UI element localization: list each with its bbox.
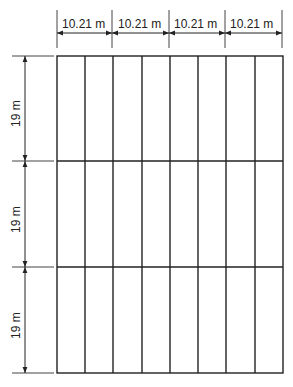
grid-diagram: 10.21 m 10.21 m 10.21 m 10.21 m 19 m 19 … [0,0,293,387]
column-dimension-label: 10.21 m [118,17,161,31]
row-dimension-label: 19 m [9,100,23,127]
row-dimension-label: 19 m [9,312,23,339]
grid [57,56,283,373]
column-dimension-label: 10.21 m [62,17,105,31]
column-dimension-label: 10.21 m [174,17,217,31]
column-dimension-label: 10.21 m [230,17,273,31]
row-dimension-label: 19 m [9,206,23,233]
